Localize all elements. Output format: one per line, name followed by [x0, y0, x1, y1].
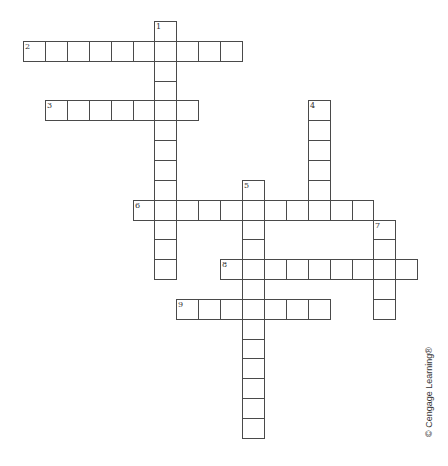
cell-letter-input[interactable] [243, 320, 264, 339]
grid-cell[interactable]: 7 [373, 220, 396, 240]
cell-letter-input[interactable] [221, 300, 242, 319]
cell-letter-input[interactable] [177, 101, 198, 120]
grid-cell[interactable]: 9 [176, 299, 199, 320]
grid-cell[interactable] [286, 259, 309, 280]
grid-cell[interactable] [111, 100, 134, 121]
cell-letter-input[interactable] [243, 300, 264, 319]
cell-letter-input[interactable] [243, 359, 264, 378]
cell-letter-input[interactable] [243, 419, 264, 438]
cell-letter-input[interactable] [112, 42, 133, 61]
grid-cell[interactable] [154, 259, 177, 280]
grid-cell[interactable] [154, 100, 177, 121]
grid-cell[interactable] [242, 398, 265, 419]
grid-cell[interactable] [242, 339, 265, 359]
cell-letter-input[interactable] [24, 42, 45, 61]
cell-letter-input[interactable] [243, 240, 264, 259]
grid-cell[interactable]: 3 [45, 100, 68, 121]
cell-letter-input[interactable] [287, 300, 308, 319]
grid-cell[interactable] [154, 120, 177, 141]
grid-cell[interactable] [308, 160, 331, 181]
grid-cell[interactable] [154, 41, 177, 62]
cell-letter-input[interactable] [243, 201, 264, 220]
cell-letter-input[interactable] [243, 221, 264, 239]
cell-letter-input[interactable] [155, 62, 176, 81]
grid-cell[interactable]: 8 [220, 259, 243, 280]
cell-letter-input[interactable] [396, 260, 417, 279]
cell-letter-input[interactable] [46, 42, 67, 61]
cell-letter-input[interactable] [134, 101, 154, 120]
grid-cell[interactable] [220, 200, 243, 221]
grid-cell[interactable] [154, 140, 177, 161]
grid-cell[interactable] [242, 319, 265, 340]
grid-cell[interactable] [89, 41, 112, 62]
grid-cell[interactable] [373, 299, 396, 320]
cell-letter-input[interactable] [374, 240, 395, 259]
cell-letter-input[interactable] [265, 201, 286, 220]
grid-cell[interactable] [308, 299, 331, 320]
cell-letter-input[interactable] [243, 181, 264, 200]
grid-cell[interactable] [176, 41, 199, 62]
cell-letter-input[interactable] [243, 399, 264, 418]
cell-letter-input[interactable] [309, 161, 330, 180]
cell-letter-input[interactable] [155, 161, 176, 180]
grid-cell[interactable] [242, 299, 265, 320]
grid-cell[interactable] [154, 239, 177, 260]
grid-cell[interactable] [154, 200, 177, 221]
cell-letter-input[interactable] [46, 101, 67, 120]
grid-cell[interactable] [242, 358, 265, 379]
grid-cell[interactable] [67, 41, 90, 62]
cell-letter-input[interactable] [243, 379, 264, 398]
cell-letter-input[interactable] [265, 260, 286, 279]
grid-cell[interactable] [395, 259, 418, 280]
grid-cell[interactable] [264, 259, 287, 280]
grid-cell[interactable] [176, 100, 199, 121]
grid-cell[interactable] [242, 239, 265, 260]
cell-letter-input[interactable] [134, 42, 154, 61]
grid-cell[interactable] [176, 200, 199, 221]
grid-cell[interactable] [198, 41, 221, 62]
grid-cell[interactable] [111, 41, 134, 62]
grid-cell[interactable] [308, 120, 331, 141]
grid-cell[interactable]: 1 [154, 21, 177, 42]
cell-letter-input[interactable] [353, 260, 373, 279]
grid-cell[interactable] [133, 41, 155, 62]
cell-letter-input[interactable] [134, 201, 154, 220]
grid-cell[interactable] [286, 200, 309, 221]
cell-letter-input[interactable] [199, 201, 220, 220]
grid-cell[interactable] [286, 299, 309, 320]
cell-letter-input[interactable] [309, 260, 330, 279]
grid-cell[interactable] [154, 61, 177, 82]
cell-letter-input[interactable] [68, 42, 89, 61]
cell-letter-input[interactable] [243, 280, 264, 299]
cell-letter-input[interactable] [155, 22, 176, 41]
grid-cell[interactable] [220, 299, 243, 320]
grid-cell[interactable] [242, 200, 265, 221]
cell-letter-input[interactable] [155, 221, 176, 239]
grid-cell[interactable] [133, 100, 155, 121]
cell-letter-input[interactable] [309, 201, 330, 220]
grid-cell[interactable] [330, 200, 353, 221]
grid-cell[interactable] [89, 100, 112, 121]
grid-cell[interactable] [308, 200, 331, 221]
grid-cell[interactable]: 6 [133, 200, 155, 221]
grid-cell[interactable] [154, 160, 177, 181]
cell-letter-input[interactable] [309, 141, 330, 160]
grid-cell[interactable] [308, 180, 331, 201]
grid-cell[interactable] [242, 259, 265, 280]
cell-letter-input[interactable] [90, 101, 111, 120]
grid-cell[interactable] [352, 259, 374, 280]
cell-letter-input[interactable] [155, 42, 176, 61]
cell-letter-input[interactable] [309, 121, 330, 140]
cell-letter-input[interactable] [155, 121, 176, 140]
cell-letter-input[interactable] [199, 42, 220, 61]
cell-letter-input[interactable] [243, 340, 264, 358]
cell-letter-input[interactable] [199, 300, 220, 319]
grid-cell[interactable] [373, 239, 396, 260]
grid-cell[interactable] [264, 200, 287, 221]
cell-letter-input[interactable] [155, 260, 176, 279]
cell-letter-input[interactable] [287, 260, 308, 279]
grid-cell[interactable] [67, 100, 90, 121]
grid-cell[interactable] [242, 418, 265, 439]
grid-cell[interactable] [242, 220, 265, 240]
cell-letter-input[interactable] [265, 300, 286, 319]
